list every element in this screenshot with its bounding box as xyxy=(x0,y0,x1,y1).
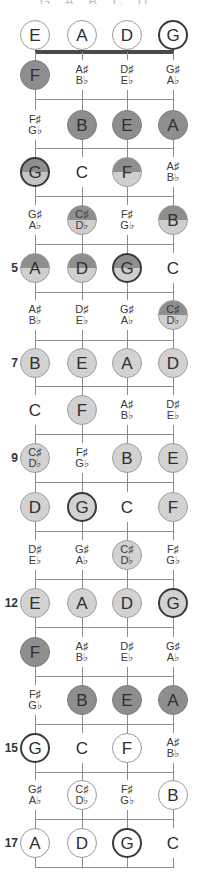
note-fret14-string-e: F♯G♭ xyxy=(20,685,50,715)
fret-line-9 xyxy=(35,482,174,483)
note-name: G xyxy=(28,740,41,757)
fret-number-15: 15 xyxy=(4,741,18,755)
note-name: G xyxy=(166,27,179,44)
note-name: G xyxy=(28,164,41,181)
enharmonic-label: F♯G♭ xyxy=(120,784,134,806)
note-fret4-string-e: G♯A♭ xyxy=(20,205,50,235)
note-fret1-string-e: F xyxy=(20,60,50,90)
enharmonic-label: G♯A♭ xyxy=(75,544,89,566)
enharmonic-label: G♯A♭ xyxy=(120,304,134,326)
flat-name: D♭ xyxy=(121,555,134,566)
note-name: C xyxy=(167,260,179,277)
flat-name: A♭ xyxy=(121,315,133,326)
note-fret10-string-d: C xyxy=(112,492,142,522)
enharmonic-label: F♯G♭ xyxy=(28,689,42,711)
enharmonic-label: A♯B♭ xyxy=(76,641,89,663)
enharmonic-label: D♯E♭ xyxy=(120,64,133,86)
note-fret12-string-g: G xyxy=(158,588,188,618)
enharmonic-label: F♯G♭ xyxy=(28,114,42,136)
flat-name: B♭ xyxy=(167,748,179,759)
enharmonic-label: D♯E♭ xyxy=(75,304,88,326)
note-fret15-string-a: C xyxy=(67,733,97,763)
note-fret7-string-d: A xyxy=(112,348,142,378)
note-fret9-string-e: C♯D♭ xyxy=(20,443,50,473)
enharmonic-label: C♯D♭ xyxy=(75,209,88,231)
enharmonic-label: A♯B♭ xyxy=(121,399,134,421)
flat-name: G♭ xyxy=(120,220,134,231)
fret-number-5: 5 xyxy=(4,261,18,275)
enharmonic-label: F♯G♭ xyxy=(75,447,89,469)
note-fret11-string-d: C♯D♭ xyxy=(112,540,142,570)
note-name: B xyxy=(167,212,178,229)
flat-name: D♭ xyxy=(29,458,42,469)
enharmonic-label: C♯D♭ xyxy=(120,544,133,566)
note-name: E xyxy=(121,117,132,134)
enharmonic-label: D♯E♭ xyxy=(166,399,179,421)
note-fret8-string-e: C xyxy=(20,395,50,425)
note-name: D xyxy=(121,27,133,44)
enharmonic-label: C♯D♭ xyxy=(166,304,179,326)
note-name: G xyxy=(120,260,133,277)
note-name: C xyxy=(167,835,179,852)
note-fret5-string-a: D xyxy=(67,253,97,283)
flat-name: D♭ xyxy=(76,220,89,231)
fret-line-5 xyxy=(35,292,174,293)
note-fret14-string-a: B xyxy=(67,685,97,715)
note-fret17-string-d: G xyxy=(112,828,142,858)
note-fret6-string-d: G♯A♭ xyxy=(112,300,142,330)
note-name: E xyxy=(29,595,40,612)
note-fret15-string-d: F xyxy=(112,733,142,763)
flat-name: E♭ xyxy=(76,315,88,326)
note-fret8-string-a: F xyxy=(67,395,97,425)
fret-line-3 xyxy=(35,196,174,197)
note-fret6-string-g: C♯D♭ xyxy=(158,300,188,330)
note-fret10-string-a: G xyxy=(67,492,97,522)
note-fret11-string-a: G♯A♭ xyxy=(67,540,97,570)
note-fret7-string-g: D xyxy=(158,348,188,378)
fret-line-16 xyxy=(35,819,174,820)
note-fret17-string-a: D xyxy=(67,828,97,858)
enharmonic-label: C♯D♭ xyxy=(75,784,88,806)
note-name: C xyxy=(121,499,133,516)
note-fret4-string-d: F♯G♭ xyxy=(112,205,142,235)
note-name: E xyxy=(76,355,87,372)
enharmonic-label: F♯G♭ xyxy=(166,544,180,566)
note-fret8-string-d: A♯B♭ xyxy=(112,395,142,425)
note-name: D xyxy=(167,355,179,372)
note-fret13-string-g: G♯A♭ xyxy=(158,637,188,667)
note-fret11-string-e: D♯E♭ xyxy=(20,540,50,570)
note-fret2-string-d: E xyxy=(112,110,142,140)
enharmonic-label: G♯A♭ xyxy=(166,641,180,663)
enharmonic-label: C♯D♭ xyxy=(28,447,41,469)
fret-number-7: 7 xyxy=(4,356,18,370)
note-fret16-string-g: B xyxy=(158,780,188,810)
nut xyxy=(35,50,174,54)
note-fret14-string-g: A xyxy=(158,685,188,715)
flat-name: A♭ xyxy=(167,652,179,663)
note-name: A xyxy=(29,260,40,277)
flat-name: D♭ xyxy=(76,795,89,806)
note-name: A xyxy=(76,27,87,44)
note-fret2-string-a: B xyxy=(67,110,97,140)
note-fret5-string-g: C xyxy=(158,253,188,283)
enharmonic-label: D♯E♭ xyxy=(120,641,133,663)
flat-name: D♭ xyxy=(167,315,180,326)
note-name: A xyxy=(167,692,178,709)
note-fret3-string-a: C xyxy=(67,157,97,187)
enharmonic-label: G♯A♭ xyxy=(166,64,180,86)
flat-name: E♭ xyxy=(121,75,133,86)
note-fret9-string-d: B xyxy=(112,443,142,473)
note-name: B xyxy=(76,692,87,709)
note-name: G xyxy=(166,595,179,612)
flat-name: B♭ xyxy=(76,652,88,663)
fret-line-2 xyxy=(35,148,174,149)
note-fret6-string-e: A♯B♭ xyxy=(20,300,50,330)
note-fret3-string-g: A♯B♭ xyxy=(158,157,188,187)
note-fret13-string-e: F xyxy=(20,637,50,667)
note-name: B xyxy=(29,355,40,372)
note-fret7-string-e: B xyxy=(20,348,50,378)
note-name: C xyxy=(29,402,41,419)
note-fret2-string-e: F♯G♭ xyxy=(20,110,50,140)
note-fret12-string-d: D xyxy=(112,588,142,618)
fret-line-15 xyxy=(35,772,174,773)
